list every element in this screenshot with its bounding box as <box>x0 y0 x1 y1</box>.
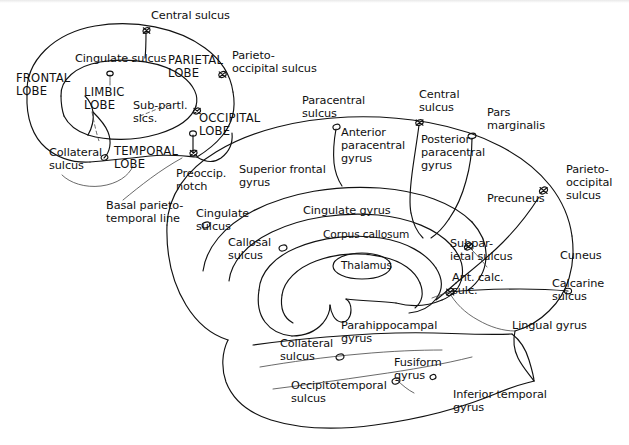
inset-label-cingulate-sulcus: Cingulate sulcus <box>75 52 166 65</box>
label-anterior-paracentral-gyrus: Anterior paracentral gyrus <box>341 126 405 166</box>
label-superior-frontal-gyrus: Superior frontal gyrus <box>239 163 326 189</box>
label-central-sulcus: Central sulcus <box>419 88 459 114</box>
inset-label-limbic-lobe: LIMBIC LOBE <box>84 86 125 112</box>
label-lingual-gyrus: Lingual gyrus <box>512 319 587 332</box>
inset-label-collateral-sulcus: Collateral sulcus <box>49 146 102 172</box>
label-corpus-callosum: Corpus callosum <box>323 228 409 240</box>
figure-canvas: Central sulcus Cingulate sulcus PARIETAL… <box>0 0 629 445</box>
label-calcarine-sulcus: Calcarine sulcus <box>552 277 604 303</box>
label-parieto-occipital-sulcus: Parieto- occipital sulcus <box>566 163 612 203</box>
inset-label-sub-parietal-sulci: Sub-partl. slcs. <box>133 99 187 125</box>
inset-label-basal-parieto-temporal-line: Basal parieto- temporal line <box>106 199 183 225</box>
label-parahippocampal-gyrus: Parahippocampal gyrus <box>341 319 437 345</box>
label-thalamus: Thalamus <box>341 259 392 271</box>
label-precuneus: Precuneus <box>487 192 545 205</box>
inset-label-frontal-lobe: FRONTAL LOBE <box>16 72 71 98</box>
inset-label-central-sulcus: Central sulcus <box>151 9 230 22</box>
label-cingulate-sulcus: Cingulate sulcus <box>196 207 249 233</box>
label-callosal-sulcus: Callosal sulcus <box>228 236 271 262</box>
label-fusiform-gyrus: Fusiform gyrus <box>394 356 442 382</box>
label-pars-marginalis: Pars marginalis <box>487 106 545 132</box>
label-subparietal-sulcus: Subpar- ietal sulcus <box>450 237 512 263</box>
label-anterior-calcarine-sulcus: Ant. calc. sulc. <box>452 271 504 297</box>
inset-label-parietal-lobe: PARIETAL LOBE <box>168 54 223 80</box>
label-inferior-temporal-gyrus: Inferior temporal gyrus <box>453 388 547 414</box>
label-cuneus: Cuneus <box>560 249 602 262</box>
inset-label-temporal-lobe: TEMPORAL LOBE <box>114 145 178 171</box>
inset-label-occipital-lobe: OCCIPITAL LOBE <box>199 112 261 138</box>
label-occipitotemporal-sulcus: Occipitotemporal sulcus <box>291 379 387 405</box>
label-cingulate-gyrus: Cingulate gyrus <box>303 204 391 217</box>
inset-label-preoccipital-notch: Preoccip. notch <box>176 167 226 193</box>
label-paracentral-sulcus: Paracentral sulcus <box>302 94 365 120</box>
label-posterior-paracentral-gyrus: Posterior paracentral gyrus <box>421 133 485 173</box>
label-collateral-sulcus: Collateral sulcus <box>280 337 333 363</box>
inset-label-parieto-occipital-sulcus: Parieto- occipital sulcus <box>232 49 317 75</box>
